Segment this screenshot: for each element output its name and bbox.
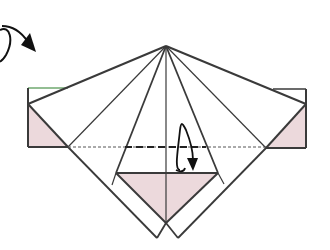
- turn-over-arrow-icon: [0, 26, 36, 62]
- bottom-pink-flap: [116, 173, 218, 223]
- left-flap: [28, 88, 68, 147]
- right-flap: [266, 89, 306, 148]
- origami-diagram: [0, 0, 330, 250]
